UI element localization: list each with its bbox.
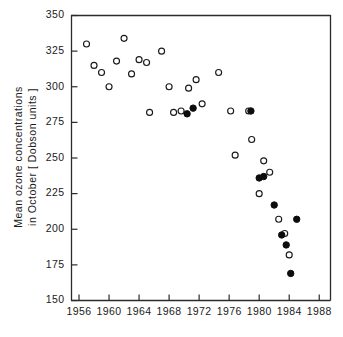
series-open-circles (84, 35, 293, 258)
data-point (144, 60, 150, 66)
y-tick-label: 150 (46, 293, 65, 305)
data-point (99, 70, 105, 76)
data-point (249, 136, 255, 142)
data-point (184, 111, 190, 117)
ozone-scatter-figure: 150175200225250275300325350 195619601964… (0, 0, 343, 337)
y-tick-label: 300 (46, 80, 65, 92)
data-point (294, 216, 300, 222)
x-axis-tick-labels: 195619601964196819721976198019841988 (67, 305, 332, 317)
y-axis-tick-labels: 150175200225250275300325350 (46, 8, 65, 305)
y-tick-label: 200 (46, 222, 65, 234)
data-point (166, 84, 172, 90)
data-point (286, 252, 292, 258)
data-point (283, 242, 289, 248)
data-point (248, 108, 254, 114)
chart-canvas: 150175200225250275300325350 195619601964… (0, 0, 343, 337)
data-point (256, 191, 262, 197)
x-tick-label: 1968 (157, 305, 182, 317)
data-point (261, 158, 267, 164)
x-tick-label: 1984 (277, 305, 302, 317)
data-point (91, 62, 97, 68)
data-point (190, 105, 196, 111)
data-point (114, 58, 120, 64)
data-point (276, 216, 282, 222)
data-point (84, 41, 90, 47)
data-point (147, 109, 153, 115)
data-point (199, 101, 205, 107)
y-tick-label: 250 (46, 151, 65, 163)
data-point (129, 71, 135, 77)
data-point (216, 70, 222, 76)
x-tick-label: 1972 (187, 305, 212, 317)
data-point (121, 35, 127, 41)
x-tick-label: 1964 (127, 305, 152, 317)
data-point (228, 108, 234, 114)
x-tick-label: 1956 (67, 305, 92, 317)
plot-frame (71, 15, 331, 301)
data-point (271, 202, 277, 208)
data-point (178, 108, 184, 114)
x-tick-label: 1976 (217, 305, 242, 317)
y-axis-title-line1: Mean ozone concentrations (12, 86, 24, 228)
x-axis-ticks (79, 295, 319, 301)
y-tick-label: 325 (46, 44, 65, 56)
data-point (288, 270, 294, 276)
y-axis-ticks (72, 16, 78, 301)
data-point (136, 57, 142, 63)
series-filled-circles (184, 105, 300, 277)
y-tick-label: 275 (46, 115, 65, 127)
data-point (106, 84, 112, 90)
data-point (159, 48, 165, 54)
y-tick-label: 225 (46, 186, 65, 198)
data-point (260, 173, 266, 179)
x-tick-label: 1980 (247, 305, 272, 317)
y-tick-label: 175 (46, 258, 65, 270)
x-tick-label: 1960 (97, 305, 122, 317)
data-point (279, 232, 285, 238)
data-point (193, 77, 199, 83)
data-point (171, 109, 177, 115)
y-axis-title-line2: in October [ Dobson units ] (26, 88, 38, 226)
data-point (267, 169, 273, 175)
data-point (186, 85, 192, 91)
y-axis-title: Mean ozone concentrations in October [ D… (12, 86, 38, 228)
y-tick-label: 350 (46, 8, 65, 20)
x-tick-label: 1988 (307, 305, 332, 317)
data-point (232, 152, 238, 158)
